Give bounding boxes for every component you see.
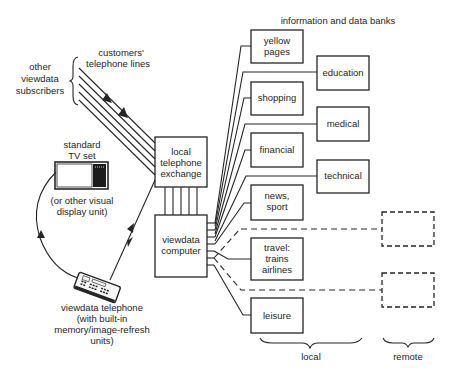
svg-text:display unit): display unit) bbox=[57, 206, 108, 217]
svg-text:computer: computer bbox=[161, 245, 201, 256]
exchange-computer-links bbox=[165, 187, 197, 215]
svg-text:standard: standard bbox=[64, 139, 101, 150]
local-label: local bbox=[301, 351, 321, 362]
svg-text:leisure: leisure bbox=[263, 310, 291, 321]
data-bank-leisure: leisure bbox=[251, 298, 303, 333]
telephone-lines-label: customers' telephone lines bbox=[86, 47, 150, 69]
data-bank-technical: technical bbox=[317, 160, 369, 193]
svg-text:viewdata telephone: viewdata telephone bbox=[61, 302, 143, 313]
link-arrow-down-icon bbox=[127, 237, 133, 247]
svg-text:local: local bbox=[171, 146, 191, 157]
remote-data-bank-1 bbox=[382, 212, 434, 246]
data-bank-yellow-pages: yellow pages bbox=[251, 30, 303, 63]
computer-ports bbox=[207, 223, 215, 265]
svg-text:sport: sport bbox=[266, 201, 287, 212]
line-arrow-up-icon bbox=[102, 93, 112, 103]
data-bank-news-sport: news, sport bbox=[251, 185, 303, 220]
viewdata-telephone-label: viewdata telephone (with built-in memory… bbox=[54, 302, 150, 346]
viewdata-system-diagram: information and data banks other viewdat… bbox=[0, 0, 455, 375]
svg-text:viewdata: viewdata bbox=[162, 234, 200, 245]
tv-set-icon bbox=[55, 162, 108, 189]
remote-brace bbox=[383, 338, 434, 347]
remote-label: remote bbox=[393, 351, 423, 362]
svg-text:airlines: airlines bbox=[262, 264, 292, 275]
tv-alt-label: (or other visual display unit) bbox=[51, 195, 114, 217]
svg-text:viewdata: viewdata bbox=[21, 73, 59, 84]
svg-text:subscribers: subscribers bbox=[16, 85, 65, 96]
svg-text:shopping: shopping bbox=[258, 92, 297, 103]
svg-text:TV set: TV set bbox=[68, 150, 96, 161]
remote-data-bank-2 bbox=[382, 273, 434, 307]
subscribers-brace bbox=[70, 57, 78, 105]
svg-text:financial: financial bbox=[260, 144, 295, 155]
svg-text:units): units) bbox=[90, 335, 113, 346]
svg-text:technical: technical bbox=[324, 170, 362, 181]
svg-text:telephone: telephone bbox=[160, 157, 202, 168]
viewdata-telephone-icon bbox=[74, 272, 121, 303]
svg-text:medical: medical bbox=[327, 118, 360, 129]
tv-title-label: standard TV set bbox=[64, 139, 101, 161]
link-arrow-up-icon bbox=[127, 223, 134, 233]
svg-text:telephone lines: telephone lines bbox=[86, 58, 150, 69]
svg-text:yellow: yellow bbox=[264, 35, 291, 46]
svg-text:travel:: travel: bbox=[264, 242, 290, 253]
viewdata-computer-label: viewdata computer bbox=[161, 234, 201, 256]
data-banks-header: information and data banks bbox=[281, 15, 396, 26]
svg-text:trains: trains bbox=[265, 253, 288, 264]
svg-text:memory/image-refresh: memory/image-refresh bbox=[54, 324, 150, 335]
local-brace bbox=[260, 338, 362, 348]
data-bank-shopping: shopping bbox=[251, 82, 303, 115]
data-bank-financial: financial bbox=[251, 133, 303, 167]
svg-text:(or other visual: (or other visual bbox=[51, 195, 114, 206]
svg-text:other: other bbox=[29, 61, 51, 72]
other-subscribers-label: other viewdata subscribers bbox=[16, 61, 65, 96]
svg-text:exchange: exchange bbox=[160, 168, 201, 179]
svg-text:education: education bbox=[322, 67, 363, 78]
data-bank-travel: travel: trains airlines bbox=[251, 238, 303, 280]
svg-text:customers': customers' bbox=[98, 47, 144, 58]
svg-text:pages: pages bbox=[264, 46, 290, 57]
data-bank-medical: medical bbox=[317, 107, 369, 141]
svg-text:(with built-in: (with built-in bbox=[77, 313, 128, 324]
data-bank-education: education bbox=[317, 56, 369, 90]
svg-text:news,: news, bbox=[265, 190, 290, 201]
